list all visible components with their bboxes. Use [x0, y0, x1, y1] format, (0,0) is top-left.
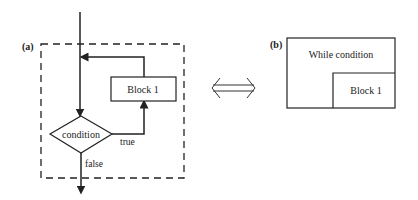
while-condition-label: While condition	[309, 49, 374, 60]
true-label: true	[120, 137, 135, 147]
loop-back-arrow	[84, 57, 144, 77]
inner-block-label: Block 1	[350, 85, 381, 96]
double-arrow-icon	[212, 78, 255, 98]
nassi-shneiderman-panel-b: (b) While condition Block 1	[270, 38, 395, 108]
while-loop-diagram: (a) condition true Block 1 false (b) Whi…	[0, 0, 418, 200]
condition-label: condition	[62, 129, 100, 140]
false-label: false	[85, 159, 103, 169]
panel-a-label: (a)	[22, 41, 34, 53]
block-1-label: Block 1	[127, 84, 158, 95]
true-branch-arrow	[112, 104, 144, 134]
loop-boundary-dashed	[41, 44, 184, 178]
panel-b-label: (b)	[270, 39, 282, 51]
flowchart-panel-a: (a) condition true Block 1 false	[22, 12, 184, 190]
